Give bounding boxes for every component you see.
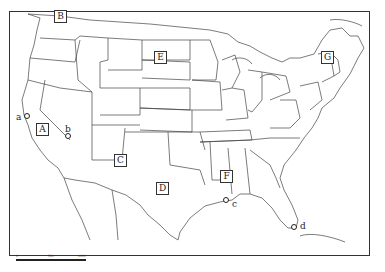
us-states-outline-map <box>0 0 385 272</box>
point-marker-b <box>65 133 71 139</box>
point-marker-d <box>291 224 297 230</box>
region-label-d: D <box>156 182 169 195</box>
region-label-b: B <box>54 10 67 23</box>
point-label-d: d <box>300 222 306 231</box>
region-label-e: E <box>154 51 167 64</box>
scale-bar: 0 500 1000 km <box>16 255 86 261</box>
point-marker-a <box>24 113 30 119</box>
region-label-c: C <box>114 154 127 167</box>
point-label-a: a <box>16 113 21 122</box>
us-outline <box>22 14 364 240</box>
scale-tick-0: 0 <box>16 254 18 258</box>
region-label-g: G <box>321 51 334 64</box>
point-label-c: c <box>232 200 237 209</box>
region-label-f: F <box>220 170 233 183</box>
scale-tick-500: 500 <box>48 254 54 258</box>
region-label-a: A <box>36 123 49 136</box>
point-marker-c <box>223 197 229 203</box>
scale-line <box>16 259 86 261</box>
